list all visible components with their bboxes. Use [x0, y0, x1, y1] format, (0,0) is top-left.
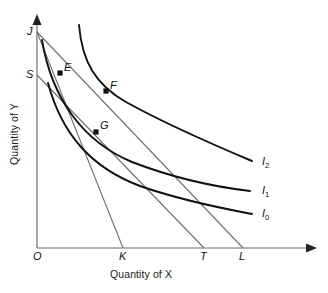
- x-axis-title: Quantity of X: [110, 268, 172, 280]
- curve-label-i0-sub: 0: [265, 213, 269, 222]
- axes-group: [33, 14, 318, 253]
- curve-label-i2: I2: [262, 155, 269, 170]
- curve-label-i1-sub: 1: [265, 190, 269, 199]
- tangency-point-g-marker: [93, 129, 98, 134]
- x-axis-label-k: K: [119, 250, 126, 262]
- indifference-curve-i1: [42, 40, 250, 191]
- y-intercept-label-j: J: [27, 25, 33, 37]
- x-axis-arrow-icon: [306, 244, 317, 253]
- tangency-point-f-marker: [103, 88, 108, 93]
- budget-line-jk: [37, 32, 123, 248]
- curve-label-i0: I0: [262, 207, 269, 222]
- indifference-curves-group: [42, 25, 252, 214]
- y-axis-arrow-icon: [33, 14, 42, 25]
- curve-label-i2-sub: 2: [265, 161, 269, 170]
- y-axis-title: Quantity of Y: [8, 94, 20, 174]
- curve-label-i1: I1: [262, 184, 269, 199]
- x-axis-label-t: T: [200, 250, 207, 262]
- x-axis-label-l: L: [239, 250, 245, 262]
- tangency-label-g: G: [100, 119, 109, 131]
- tangency-label-f: F: [110, 79, 117, 91]
- y-intercept-label-s: S: [26, 68, 33, 80]
- indifference-curve-diagram: [0, 0, 328, 293]
- x-axis-label-o: O: [33, 250, 42, 262]
- tangency-label-e: E: [64, 61, 71, 73]
- tangency-point-e-marker: [57, 70, 62, 75]
